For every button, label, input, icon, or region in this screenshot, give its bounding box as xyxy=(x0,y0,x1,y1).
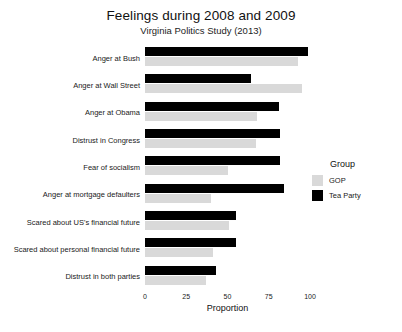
bar-group xyxy=(145,263,310,290)
bar-tea-party xyxy=(145,102,279,111)
chart-subtitle: Virginia Politics Study (2013) xyxy=(0,25,402,37)
bar-group xyxy=(145,126,310,153)
y-axis-label: Anger at Obama xyxy=(0,108,140,117)
bar-tea-party xyxy=(145,238,236,247)
bar-gop xyxy=(145,248,213,257)
bar-tea-party xyxy=(145,156,280,165)
bar-gop xyxy=(145,166,228,175)
bar-tea-party xyxy=(145,211,236,220)
bar-tea-party xyxy=(145,47,308,56)
legend-swatch xyxy=(312,175,323,186)
bar-tea-party xyxy=(145,184,284,193)
bar-group xyxy=(145,153,310,180)
legend-swatch xyxy=(312,190,323,201)
y-axis-label: Anger at Wall Street xyxy=(0,81,140,90)
legend-title: Group xyxy=(330,158,400,170)
y-axis-label: Scared about US's financial future xyxy=(0,218,140,227)
plot-area xyxy=(145,44,310,290)
legend-item[interactable]: Tea Party xyxy=(312,188,400,203)
y-axis-label: Anger at mortgage defaulters xyxy=(0,190,140,199)
bar-gop xyxy=(145,57,298,66)
bar-group xyxy=(145,44,310,71)
legend: Group GOPTea Party xyxy=(312,158,400,203)
bar-gop xyxy=(145,139,256,148)
bar-group xyxy=(145,99,310,126)
bar-tea-party xyxy=(145,266,216,275)
y-axis-label: Scared about personal financial future xyxy=(0,245,140,254)
legend-item[interactable]: GOP xyxy=(312,173,400,188)
y-axis-label: Distrust in Congress xyxy=(0,136,140,145)
chart-title: Feelings during 2008 and 2009 xyxy=(0,8,402,24)
bar-gop xyxy=(145,194,211,203)
x-axis-tick-label: 100 xyxy=(304,292,316,301)
x-axis-tick-label: 50 xyxy=(224,292,232,301)
x-axis-tick-label: 0 xyxy=(143,292,147,301)
bar-group xyxy=(145,235,310,262)
x-axis-tick-label: 75 xyxy=(265,292,273,301)
title-block: Feelings during 2008 and 2009 Virginia P… xyxy=(0,8,402,37)
legend-items: GOPTea Party xyxy=(312,173,400,203)
bar-gop xyxy=(145,84,302,93)
y-axis-label: Distrust in both parties xyxy=(0,272,140,281)
chart-container: Feelings during 2008 and 2009 Virginia P… xyxy=(0,0,402,332)
y-axis-labels: Anger at BushAnger at Wall StreetAnger a… xyxy=(0,44,140,290)
legend-label: Tea Party xyxy=(329,191,361,200)
bar-tea-party xyxy=(145,129,280,138)
legend-label: GOP xyxy=(329,176,346,185)
x-axis-title: Proportion xyxy=(145,303,310,314)
bar-group xyxy=(145,181,310,208)
x-axis-tick-label: 25 xyxy=(182,292,190,301)
bar-group xyxy=(145,71,310,98)
y-axis-label: Fear of socialism xyxy=(0,163,140,172)
bar-tea-party xyxy=(145,74,251,83)
bar-gop xyxy=(145,221,229,230)
bar-gop xyxy=(145,276,206,285)
y-axis-label: Anger at Bush xyxy=(0,54,140,63)
bar-gop xyxy=(145,112,257,121)
bar-group xyxy=(145,208,310,235)
